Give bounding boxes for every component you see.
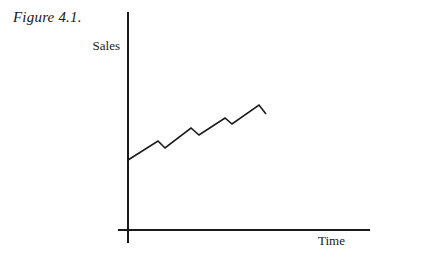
- sales-trend-line: [128, 105, 266, 160]
- line-chart-plot: [0, 0, 445, 259]
- figure-page: Figure 4.1. Sales Time: [0, 0, 445, 259]
